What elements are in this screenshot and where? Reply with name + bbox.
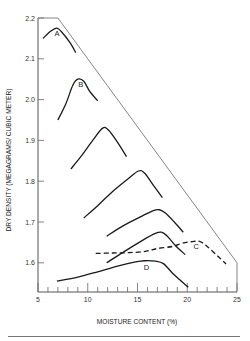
y-tick-label: 2.1 [25, 55, 35, 62]
y-tick-label: 1.8 [25, 178, 35, 185]
curve-d [57, 261, 188, 288]
curve-label-b: B [78, 80, 83, 89]
y-tick-label: 1.7 [25, 219, 35, 226]
curve-curve-4 [84, 171, 163, 218]
y-tick-label: 1.9 [25, 137, 35, 144]
curve-label-a: A [54, 29, 59, 38]
x-tick-label: 20 [183, 296, 191, 303]
y-tick-label: 2.2 [25, 15, 35, 22]
curve-curve-6 [107, 232, 186, 263]
y-axis-title: DRY DENSITY (MEGAGRAMS/ CUBIC METER) [5, 89, 13, 232]
zero-air-voids-boundary [38, 18, 237, 291]
y-tick-label: 1.6 [25, 259, 35, 266]
curve-label-c: C [193, 242, 199, 251]
axes: 5101520251.61.71.81.92.02.12.2 [25, 15, 241, 304]
curve-curve-5 [107, 210, 184, 237]
compaction-curves-chart: 5101520251.61.71.81.92.02.12.2 ABCD MOIS… [0, 0, 250, 341]
curve-curve-3 [71, 127, 127, 169]
boundary-line [38, 18, 237, 291]
x-axis-title: MOISTURE CONTENT (%) [97, 318, 177, 326]
curve-labels: ABCD [54, 29, 199, 271]
x-tick-label: 5 [36, 296, 40, 303]
curve-label-d: D [144, 263, 150, 272]
curve-c [96, 241, 226, 264]
y-tick-label: 2.0 [25, 96, 35, 103]
footer-divider [8, 336, 240, 337]
x-tick-label: 10 [84, 296, 92, 303]
x-tick-label: 15 [134, 296, 142, 303]
x-tick-label: 25 [233, 296, 241, 303]
